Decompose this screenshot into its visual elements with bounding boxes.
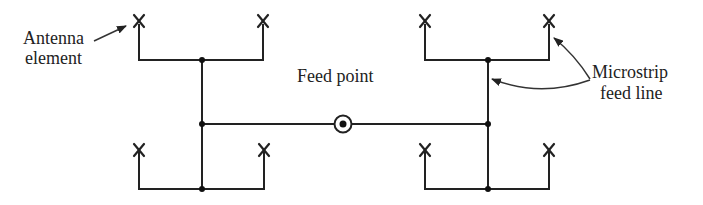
antenna-callout-arrow bbox=[94, 26, 126, 41]
antenna-array-diagram: Antenna element Feed point Microstrip fe… bbox=[0, 0, 703, 205]
left-top-subarray bbox=[134, 15, 268, 60]
antenna-element-label-line1: Antenna bbox=[23, 28, 84, 48]
diagram-canvas: Antenna element Feed point Microstrip fe… bbox=[0, 0, 703, 205]
microstrip-callout-arrow-element bbox=[554, 38, 590, 79]
microstrip-callout-arrow-trunk bbox=[492, 79, 590, 89]
feed-line-segment bbox=[139, 24, 263, 60]
microstrip-label-line2: feed line bbox=[600, 83, 662, 103]
feed-point-label: Feed point bbox=[297, 66, 374, 86]
antenna-element-label-line2: element bbox=[25, 48, 82, 68]
microstrip-label-line1: Microstrip bbox=[592, 62, 668, 82]
feed-line-segment bbox=[425, 24, 549, 60]
feed-point-icon bbox=[335, 116, 352, 133]
right-top-subarray bbox=[420, 15, 554, 60]
